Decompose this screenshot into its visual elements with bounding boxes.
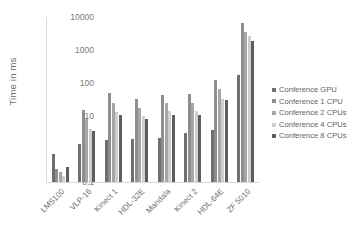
bar-group [78, 17, 95, 182]
bar [62, 176, 65, 182]
bar-group [237, 17, 254, 182]
bar [66, 167, 69, 182]
bar-group [211, 17, 228, 182]
bar [85, 119, 88, 182]
bar [191, 103, 194, 182]
legend-swatch-icon [272, 123, 276, 127]
legend-swatch-icon [272, 99, 276, 103]
bar [221, 99, 224, 182]
bar [78, 144, 81, 182]
bar [142, 116, 145, 182]
bar [188, 94, 191, 182]
bar [158, 138, 161, 182]
bar [172, 115, 175, 182]
bar [251, 41, 254, 182]
bar-group [105, 17, 122, 182]
bar [195, 111, 198, 182]
legend-item[interactable]: Conference 1 CPU [272, 96, 356, 108]
legend-label: Conference 1 CPU [279, 98, 343, 106]
bar [165, 103, 168, 182]
bar [237, 75, 240, 182]
bar [168, 111, 171, 182]
bar [184, 133, 187, 182]
bar [218, 89, 221, 182]
bar-group [52, 17, 69, 182]
legend-swatch-icon [272, 111, 276, 115]
bar-group [131, 17, 148, 182]
bar [52, 154, 55, 182]
bar [82, 110, 85, 182]
plot-area [46, 17, 258, 182]
bar [115, 112, 118, 182]
legend-item[interactable]: Conference 4 CPUs [272, 119, 356, 131]
bar-group [158, 17, 175, 182]
bar [225, 100, 228, 182]
bar [105, 140, 108, 182]
bar [55, 169, 58, 182]
legend-label: Conference GPU [279, 86, 337, 94]
legend-swatch-icon [272, 134, 276, 138]
bar [92, 131, 95, 182]
bar [59, 172, 62, 182]
y-axis-title: Time in ms [7, 46, 18, 118]
bar [214, 80, 217, 182]
legend-item[interactable]: Conference 8 CPUs [272, 130, 356, 142]
bar [161, 95, 164, 182]
legend-label: Conference 2 CPUs [279, 109, 347, 117]
bar [198, 115, 201, 182]
bar-chart: Time in ms 1000010001001010,1 LMS100VLP-… [0, 0, 356, 233]
bar-group [184, 17, 201, 182]
legend-label: Conference 4 CPUs [279, 121, 347, 129]
bar [138, 108, 141, 182]
chart-legend: Conference GPUConference 1 CPUConference… [272, 84, 356, 142]
bar [108, 93, 111, 182]
bar [89, 129, 92, 182]
legend-swatch-icon [272, 88, 276, 92]
bar [135, 99, 138, 182]
legend-item[interactable]: Conference GPU [272, 84, 356, 96]
bar [241, 23, 244, 182]
legend-item[interactable]: Conference 2 CPUs [272, 107, 356, 119]
bar [211, 130, 214, 182]
bar [244, 32, 247, 182]
bar [248, 36, 251, 182]
legend-label: Conference 8 CPUs [279, 132, 347, 140]
bar [112, 103, 115, 182]
bar [145, 119, 148, 182]
bar [119, 115, 122, 182]
bar [131, 139, 134, 182]
